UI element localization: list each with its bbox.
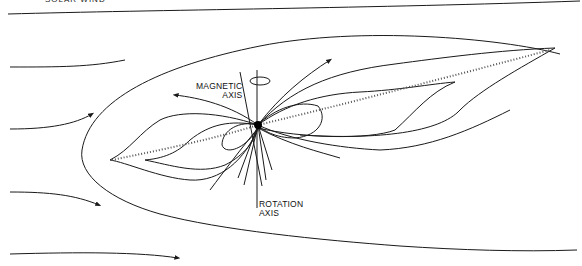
- top-boundary-line: [8, 1, 580, 14]
- right-outer-lobe: [258, 48, 555, 136]
- equatorial-current-sheet: [112, 50, 550, 160]
- magnetosphere-diagram: [0, 0, 582, 266]
- rotation-axis-label: ROTATION AXIS: [259, 200, 303, 218]
- right-open-line-3: [258, 128, 340, 158]
- magnetic-axis-label-line2: AXIS: [196, 91, 242, 100]
- magnetic-axis-label: MAGNETIC AXIS: [196, 82, 242, 100]
- central-star: [254, 121, 262, 129]
- flow-line-3: [10, 192, 99, 205]
- flow-line-2: [10, 114, 92, 129]
- rotation-indicator: [250, 77, 270, 85]
- rotation-axis-label-line2: AXIS: [259, 209, 303, 218]
- flow-line-4: [10, 253, 178, 258]
- left-outer-lobe: [110, 114, 258, 180]
- flow-line-1: [10, 60, 125, 67]
- left-open-line-2: [210, 128, 258, 190]
- right-open-line-1: [258, 60, 330, 125]
- outer-boundary: [82, 36, 577, 251]
